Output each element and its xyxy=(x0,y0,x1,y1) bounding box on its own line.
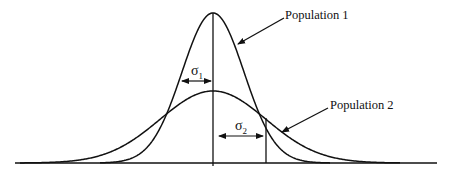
sigma2-label: σ2 xyxy=(235,119,247,136)
population2-label: Population 2 xyxy=(330,99,394,112)
distribution-diagram: Population 1 Population 2 σ1 σ2 xyxy=(0,0,451,179)
population1-label: Population 1 xyxy=(285,9,349,22)
sigma1-label: σ1 xyxy=(191,64,203,81)
sigma1-symbol: σ xyxy=(191,63,199,78)
population1-curve xyxy=(100,13,330,163)
sigma2-subscript: 2 xyxy=(243,126,248,136)
population2-pointer xyxy=(282,108,328,132)
diagram-canvas xyxy=(0,0,451,179)
sigma2-symbol: σ xyxy=(235,118,243,133)
population1-pointer xyxy=(238,18,284,44)
sigma1-subscript: 1 xyxy=(199,71,204,81)
